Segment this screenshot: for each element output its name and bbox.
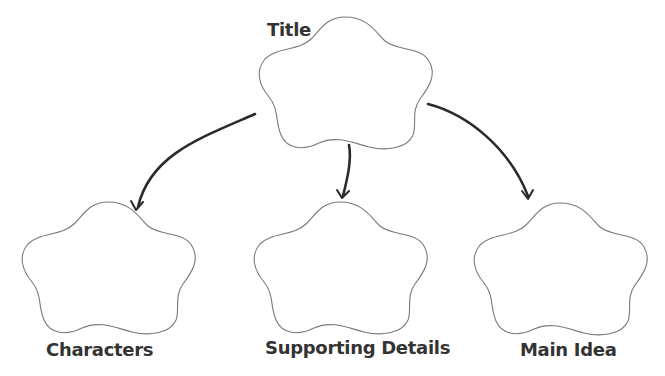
supporting-details-flower-shape xyxy=(254,202,427,334)
arrow-title-to-characters xyxy=(131,114,255,210)
graphic-organizer-diagram xyxy=(0,0,665,376)
arrow-title-to-main-idea xyxy=(428,104,533,199)
label-supporting-details: Supporting Details xyxy=(265,337,450,358)
node-supporting-details xyxy=(254,202,427,334)
characters-flower-shape xyxy=(22,202,195,334)
label-characters: Characters xyxy=(46,339,153,360)
arrowhead-icon xyxy=(131,201,143,210)
node-characters xyxy=(22,202,195,334)
main-idea-flower-shape xyxy=(474,203,647,335)
arrow-title-to-supporting-details xyxy=(337,145,350,198)
label-main-idea: Main Idea xyxy=(520,339,617,360)
node-main-idea xyxy=(474,203,647,335)
label-title: Title xyxy=(267,19,311,40)
